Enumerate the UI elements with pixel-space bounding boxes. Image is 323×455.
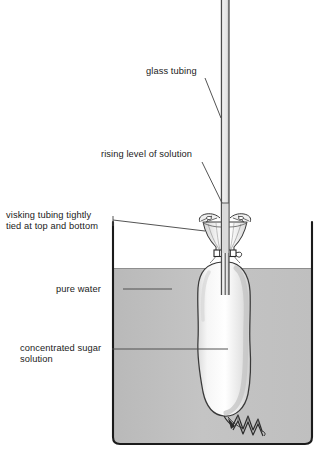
label-rising-level-of-solution: rising level of solution — [101, 149, 192, 160]
leader-visking-line — [113, 220, 205, 231]
tie-band-knot-tail — [236, 252, 242, 257]
solution-column-fill — [222, 203, 228, 253]
label-glass-tubing: glass tubing — [146, 66, 197, 77]
leader-rising-level — [202, 162, 222, 203]
solution-column-in-tube — [222, 203, 229, 253]
rim-fold-knot-right — [238, 216, 243, 219]
leader-visking — [113, 216, 205, 231]
diagram-canvas: glass tubing rising level of solution vi… — [0, 0, 323, 455]
label-pure-water: pure water — [56, 284, 101, 295]
label-concentrated-sugar-solution: concentrated sugar solution — [20, 343, 101, 366]
leader-glass-tubing — [205, 78, 221, 118]
label-visking-tubing: visking tubing tightly tied at top and b… — [6, 210, 98, 233]
rim-fold-knot-left — [206, 216, 211, 219]
